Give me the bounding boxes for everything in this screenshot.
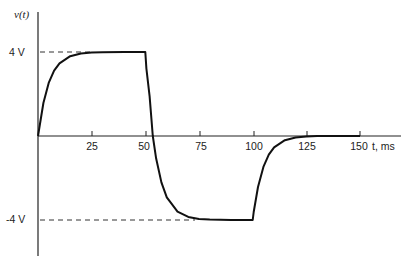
y-tick-label-4v: 4 V	[9, 46, 25, 58]
svg-text:125: 125	[298, 140, 316, 152]
x-axis-label: t, ms	[372, 140, 395, 152]
x-tick-labels: 25 50 75 100 125 150	[86, 140, 368, 152]
svg-text:25: 25	[86, 140, 98, 152]
chart: v(t) 4 V -4 V 25 50 75 100 125 150 t, ms	[0, 0, 410, 271]
svg-text:100: 100	[245, 140, 263, 152]
svg-text:75: 75	[195, 140, 207, 152]
svg-text:50: 50	[138, 140, 150, 152]
svg-text:150: 150	[350, 140, 368, 152]
y-axis-label: v(t)	[14, 8, 30, 21]
y-tick-label-neg4v: -4 V	[6, 213, 25, 225]
